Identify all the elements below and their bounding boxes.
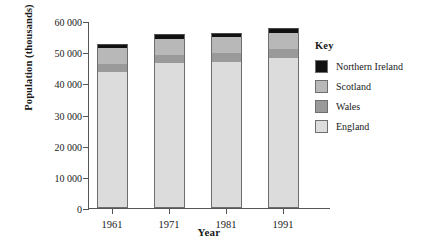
bar-segment-scotland[interactable] xyxy=(154,39,185,55)
x-tick-mark xyxy=(169,209,170,214)
y-tick-mark xyxy=(83,209,89,210)
bar-segment-scotland[interactable] xyxy=(211,37,242,53)
x-axis-line xyxy=(88,208,330,209)
y-tick-label: 10 000 xyxy=(55,172,83,183)
y-tick-label: 20 000 xyxy=(55,141,83,152)
y-tick-label: 50 000 xyxy=(55,48,83,59)
y-tick-mark xyxy=(83,22,89,23)
y-tick-label: 0 xyxy=(77,204,82,215)
bar-1961[interactable] xyxy=(97,44,128,208)
legend-label: England xyxy=(336,121,369,132)
y-tick-mark xyxy=(83,53,89,54)
legend-swatch-icon xyxy=(315,80,328,93)
legend: Key Northern IrelandScotlandWalesEngland xyxy=(315,40,423,137)
x-tick-mark xyxy=(112,209,113,214)
plot-area: 010 00020 00030 00040 00050 00060 000 19… xyxy=(88,22,313,209)
legend-label: Wales xyxy=(336,101,360,112)
legend-swatch-icon xyxy=(315,100,328,113)
legend-item-wales[interactable]: Wales xyxy=(315,97,423,115)
y-axis-title: Population (thousands) xyxy=(23,0,34,138)
y-tick-mark xyxy=(83,84,89,85)
bar-segment-wales[interactable] xyxy=(154,55,185,64)
x-tick-mark xyxy=(283,209,284,214)
bar-segment-scotland[interactable] xyxy=(97,48,128,64)
bar-segment-scotland[interactable] xyxy=(268,33,299,49)
bar-1971[interactable] xyxy=(154,34,185,208)
y-tick-mark xyxy=(83,116,89,117)
legend-title: Key xyxy=(315,40,423,51)
bar-segment-wales[interactable] xyxy=(211,53,242,62)
y-tick-label: 30 000 xyxy=(55,110,83,121)
bar-1981[interactable] xyxy=(211,33,242,208)
bar-segment-wales[interactable] xyxy=(97,64,128,72)
legend-swatch-icon xyxy=(315,60,328,73)
legend-rows: Northern IrelandScotlandWalesEngland xyxy=(315,57,423,135)
x-tick-mark xyxy=(226,209,227,214)
y-tick-label: 40 000 xyxy=(55,79,83,90)
y-tick-mark xyxy=(83,147,89,148)
x-axis-title: Year xyxy=(88,226,330,238)
bar-segment-england[interactable] xyxy=(154,63,185,208)
legend-item-scotland[interactable]: Scotland xyxy=(315,77,423,95)
bar-segment-wales[interactable] xyxy=(268,49,299,58)
y-tick-label: 60 000 xyxy=(55,17,83,28)
bar-segment-england[interactable] xyxy=(268,58,299,208)
legend-item-england[interactable]: England xyxy=(315,117,423,135)
y-tick-mark xyxy=(83,178,89,179)
legend-label: Northern Ireland xyxy=(336,61,403,72)
bar-1991[interactable] xyxy=(268,28,299,208)
bar-segment-england[interactable] xyxy=(211,62,242,208)
bar-segment-england[interactable] xyxy=(97,72,128,208)
legend-label: Scotland xyxy=(336,81,371,92)
legend-swatch-icon xyxy=(315,120,328,133)
population-stacked-bar-chart: Population (thousands) 010 00020 00030 0… xyxy=(0,0,424,248)
legend-item-northern-ireland[interactable]: Northern Ireland xyxy=(315,57,423,75)
